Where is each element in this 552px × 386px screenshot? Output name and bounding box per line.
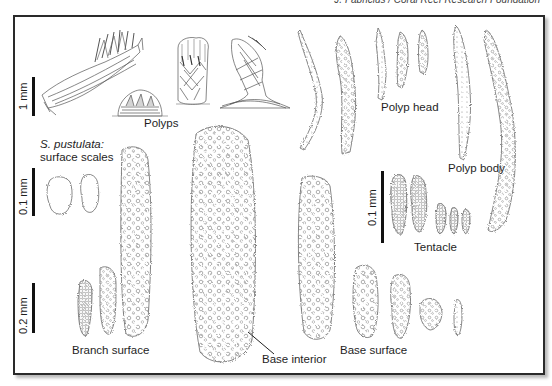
sclerite-illustration — [0, 0, 552, 386]
scale-bar-scales-label: 0.1 mm — [17, 178, 29, 215]
scale-bar-scales — [32, 168, 35, 216]
label-tentacle: Tentacle — [414, 241, 457, 253]
polyp-cylindrical — [176, 37, 210, 104]
scale-bar-sclerites — [32, 283, 35, 333]
polyp-twisted — [220, 36, 290, 108]
scale-bar-sclerites-label: 0.2 mm — [17, 297, 29, 334]
label-base-surface: Base surface — [340, 344, 407, 356]
base-interior-leader-line — [248, 332, 274, 354]
polyp-body-sclerites — [454, 26, 516, 232]
label-polyp-body: Polyp body — [448, 162, 505, 174]
polyp-head-sclerites — [298, 28, 428, 154]
label-species: S. pustulata: — [40, 138, 104, 150]
label-branch-surface: Branch surface — [72, 344, 149, 356]
label-base-interior: Base interior — [262, 353, 327, 365]
label-polyp-head: Polyp head — [381, 101, 439, 113]
scale-bar-polyps-label: 1 mm — [17, 83, 29, 111]
surface-scales — [47, 174, 99, 214]
scale-bar-tentacle — [381, 171, 384, 243]
polyp-dome — [112, 90, 168, 116]
scale-bar-tentacle-label: 0.1 mm — [366, 189, 378, 226]
scale-bar-polyps — [32, 77, 35, 116]
tentacle-sclerites — [391, 174, 470, 234]
polyp-drawings — [42, 30, 290, 116]
label-polyps: Polyps — [144, 117, 179, 129]
label-surface-scales: surface scales — [40, 151, 114, 163]
base-interior-sclerite — [191, 126, 255, 362]
